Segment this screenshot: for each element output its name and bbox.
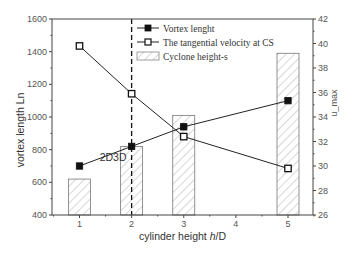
- y-right-tick-label: 38: [318, 63, 328, 73]
- legend-label: Cyclone height-s: [163, 52, 228, 62]
- y-right-axis-title: u_max: [329, 89, 339, 117]
- y-tick-label: 1200: [27, 79, 47, 89]
- marker-filled-square: [128, 143, 134, 149]
- legend-label: Vortex lenght: [163, 24, 215, 34]
- x-axis-title: cylinder height h/D: [139, 230, 226, 242]
- y-right-tick-label: 32: [318, 137, 328, 147]
- y-right-tick-label: 28: [318, 186, 328, 196]
- y-axis-title: vortex length Ln: [14, 92, 26, 167]
- legend-marker: [145, 25, 151, 31]
- legend-label: The tangential velocity at CS: [163, 38, 274, 48]
- y-tick-label: 1000: [27, 112, 47, 122]
- legend: Vortex lenghtThe tangential velocity at …: [137, 24, 274, 62]
- x-tick-label: 4: [233, 219, 238, 229]
- marker-filled-square: [181, 124, 187, 130]
- y-right-tick-label: 40: [318, 39, 328, 49]
- y-tick-label: 600: [32, 177, 47, 187]
- bar: [277, 53, 299, 215]
- legend-marker: [145, 39, 151, 45]
- x-tick-label: 3: [181, 219, 186, 229]
- marker-open-square: [181, 133, 187, 139]
- y-tick-label: 400: [32, 210, 47, 220]
- marker-open-square: [285, 165, 291, 171]
- chart: 2D3D 40060080010001200140016002628303234…: [0, 0, 355, 254]
- x-tick-label: 1: [77, 219, 82, 229]
- x-tick-label: 2: [129, 219, 134, 229]
- y-right-tick-label: 26: [318, 210, 328, 220]
- legend-swatch: [137, 52, 159, 60]
- y-right-tick-label: 30: [318, 161, 328, 171]
- y-right-tick-label: 36: [318, 88, 328, 98]
- y-tick-label: 800: [32, 145, 47, 155]
- marker-open-square: [76, 43, 82, 49]
- marker-filled-square: [76, 163, 82, 169]
- x-tick-label: 5: [285, 219, 290, 229]
- y-tick-label: 1600: [27, 14, 47, 24]
- bar: [69, 179, 91, 215]
- y-right-tick-label: 34: [318, 112, 328, 122]
- marker-filled-square: [285, 97, 291, 103]
- y-tick-label: 1400: [27, 47, 47, 57]
- y-right-tick-label: 42: [318, 14, 328, 24]
- marker-open-square: [128, 91, 134, 97]
